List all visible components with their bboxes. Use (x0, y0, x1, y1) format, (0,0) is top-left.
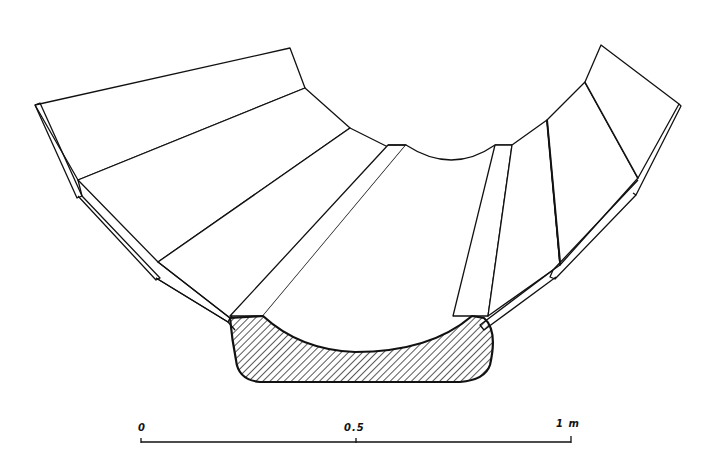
scale-bar (141, 436, 571, 443)
scale-label-end: 1 m (556, 418, 580, 429)
scale-label-start: 0 (138, 422, 146, 433)
scale-label-mid: 0.5 (344, 422, 365, 433)
hull-cross-section-drawing (0, 0, 713, 456)
keel-hatched-section (230, 316, 493, 382)
